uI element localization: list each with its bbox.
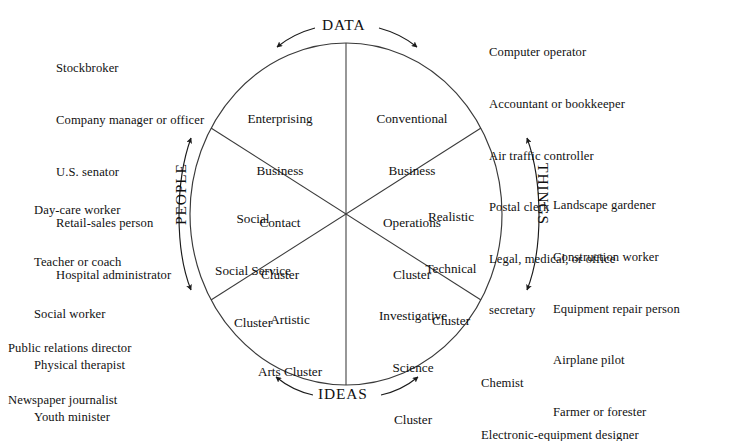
occupation-item: Company manager or officer <box>56 112 204 129</box>
cluster-line: Social <box>188 210 318 227</box>
cluster-label-social: Social Social Service Cluster <box>188 175 318 366</box>
cluster-line: Social Service <box>188 262 318 279</box>
data-arrow-right <box>379 28 417 47</box>
occupation-item: Physical therapist <box>34 357 125 374</box>
cluster-line: Investigative <box>354 307 472 324</box>
occupation-list-investigative: Chemist Electronic-equipment designer Ph… <box>481 341 639 441</box>
occupation-item: Accountant or bookkeeper <box>489 96 625 113</box>
occupation-item: Youth minister <box>34 409 125 426</box>
occupation-item: Chemist <box>481 375 639 392</box>
cluster-line: Enterprising <box>220 110 340 127</box>
cluster-line: Conventional <box>352 110 472 127</box>
cluster-line: Cluster <box>354 411 472 428</box>
occupation-item: Landscape gardener <box>553 197 680 214</box>
occupation-item: Equipment repair person <box>553 301 680 318</box>
occupation-item: Stockbroker <box>56 60 204 77</box>
occupation-item: Computer operator <box>489 44 625 61</box>
occupation-item: Social worker <box>34 306 125 323</box>
occupation-item: Construction worker <box>553 249 680 266</box>
axis-label-data: DATA <box>322 16 365 34</box>
occupation-list-social: Day-care worker Teacher or coach Social … <box>34 168 125 441</box>
cluster-label-investigative: Investigative Science Cluster <box>354 272 472 441</box>
career-interest-wheel-diagram: DATA THINGS IDEAS PEOPLE Enterprising Bu… <box>0 0 734 441</box>
data-arrow-left <box>277 28 315 47</box>
occupation-item: Teacher or coach <box>34 254 125 271</box>
cluster-line: Science <box>354 359 472 376</box>
cluster-line: Cluster <box>188 314 318 331</box>
occupation-item: Electronic-equipment designer <box>481 427 639 441</box>
occupation-item: Day-care worker <box>34 202 125 219</box>
